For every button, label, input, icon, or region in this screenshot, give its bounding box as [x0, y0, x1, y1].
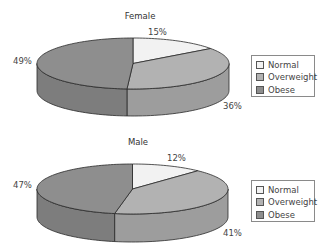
- chart-title: Female: [100, 11, 180, 21]
- pie-top: [37, 164, 228, 214]
- legend-swatch-overweight: [256, 198, 264, 206]
- label-obese: 47%: [13, 180, 32, 190]
- legend-swatch-normal: [256, 186, 264, 194]
- legend-label: Normal: [268, 60, 299, 70]
- legend-swatch-overweight: [256, 73, 264, 81]
- legend-item-normal: Normal: [256, 184, 314, 196]
- female-chart: Female 15% 36% 49% Normal Overweight Obe…: [0, 0, 335, 126]
- legend-item-normal: Normal: [256, 59, 314, 71]
- label-overweight: 41%: [223, 228, 242, 238]
- male-chart: Male 12% 41% 47% Normal Overweight Obese: [0, 126, 335, 252]
- legend-label: Obese: [268, 85, 295, 95]
- legend-swatch-obese: [256, 211, 264, 219]
- legend-label: Overweight: [268, 72, 317, 82]
- legend: Normal Overweight Obese: [251, 180, 315, 222]
- legend-item-overweight: Overweight: [256, 71, 314, 83]
- pie-top: [37, 38, 229, 89]
- legend-label: Overweight: [268, 197, 317, 207]
- label-normal: 12%: [167, 153, 186, 163]
- chart-title: Male: [98, 137, 178, 147]
- label-normal: 15%: [148, 27, 167, 37]
- legend-item-overweight: Overweight: [256, 196, 314, 208]
- legend: Normal Overweight Obese: [251, 55, 315, 97]
- label-obese: 49%: [13, 56, 32, 66]
- legend-label: Normal: [268, 185, 299, 195]
- label-overweight: 36%: [223, 101, 242, 111]
- legend-item-obese: Obese: [256, 209, 314, 221]
- legend-swatch-obese: [256, 86, 264, 94]
- legend-item-obese: Obese: [256, 84, 314, 96]
- legend-label: Obese: [268, 210, 295, 220]
- legend-swatch-normal: [256, 61, 264, 69]
